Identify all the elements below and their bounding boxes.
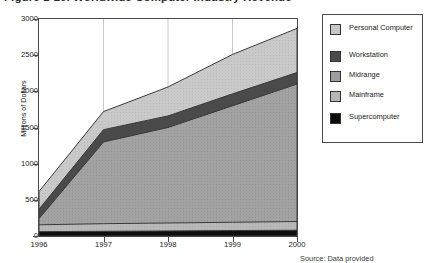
- legend-item[interactable]: Midrange: [330, 70, 417, 82]
- plot-area: [38, 18, 298, 237]
- legend-item-label: Midrange: [349, 70, 417, 80]
- x-tick-mark: [297, 237, 298, 242]
- stacked-area-chart: [39, 19, 297, 236]
- legend-swatch-icon: [330, 51, 341, 62]
- x-tick-label: 1996: [19, 240, 59, 249]
- legend: Personal ComputerWorkstationMidrangeMain…: [322, 14, 423, 143]
- legend-swatch-icon: [330, 91, 341, 102]
- legend-item-label: Supercomputer: [349, 112, 417, 122]
- legend-swatch-icon: [330, 113, 341, 124]
- legend-item-label: Mainframe: [349, 90, 417, 100]
- area-series: [39, 230, 297, 236]
- legend-item[interactable]: Supercomputer: [330, 112, 417, 124]
- legend-item-label: Workstation: [349, 50, 417, 60]
- x-tick-mark: [168, 237, 169, 242]
- legend-item[interactable]: Personal Computer: [330, 23, 417, 35]
- legend-item[interactable]: Mainframe: [330, 90, 417, 102]
- x-tick-mark: [104, 237, 105, 242]
- y-axis-title: Millions of Dollars: [19, 64, 28, 154]
- source-note: Source: Data provided: [300, 254, 374, 263]
- legend-swatch-icon: [330, 24, 341, 35]
- legend-swatch-icon: [330, 71, 341, 82]
- legend-item-label: Personal Computer: [349, 23, 417, 33]
- legend-item[interactable]: Workstation: [330, 50, 417, 62]
- x-tick-mark: [233, 237, 234, 242]
